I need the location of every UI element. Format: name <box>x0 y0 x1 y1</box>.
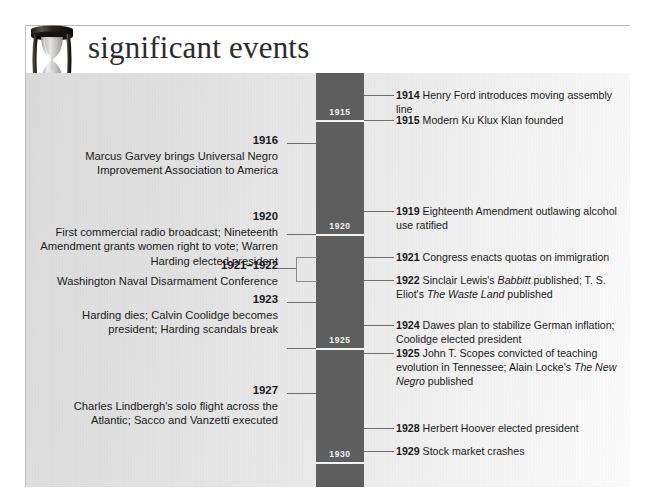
left-event-1923: 1923 Harding dies; Calvin Coolidge becom… <box>56 292 278 337</box>
right-event-1924-year: 1924 <box>396 319 420 331</box>
decade-label-1920: 1920 <box>316 221 364 231</box>
decade-label-1930: 1930 <box>316 449 364 459</box>
left-event-1916-text: Marcus Garvey brings Universal Negro Imp… <box>85 150 278 177</box>
connector-1928 <box>364 428 394 429</box>
right-event-1914-text: Henry Ford introduces moving assembly li… <box>396 89 612 115</box>
decade-rule-1925 <box>316 348 364 350</box>
left-event-1923-text: Harding dies; Calvin Coolidge becomes pr… <box>82 309 278 336</box>
connector-1929 <box>364 451 394 452</box>
connector-1925r <box>364 353 394 354</box>
right-event-1928-text: Herbert Hoover elected president <box>423 422 579 434</box>
connector-1915 <box>364 120 394 121</box>
left-event-1921-1922-year: 1921–1922 <box>40 258 278 273</box>
decade-label-1925: 1925 <box>316 335 364 345</box>
bracket-1921-1922 <box>296 257 317 282</box>
left-event-1927: 1927 Charles Lindbergh's solo flight acr… <box>46 383 278 428</box>
left-event-1921-1922: 1921–1922 Washington Naval Disarmament C… <box>40 258 278 288</box>
left-event-1920-year: 1920 <box>38 209 278 224</box>
right-event-1928: 1928Herbert Hoover elected president <box>396 421 628 435</box>
right-event-1925-year: 1925 <box>396 347 420 359</box>
right-event-1929: 1929Stock market crashes <box>396 444 628 458</box>
connector-1922r <box>364 280 394 281</box>
right-event-1921: 1921Congress enacts quotas on immigratio… <box>396 250 628 264</box>
timeline-page: significant events 1915 1920 1925 1930 <box>0 0 657 496</box>
decade-label-1915: 1915 <box>316 107 364 117</box>
right-event-1915: 1915Modern Ku Klux Klan founded <box>396 113 628 127</box>
connector-1923 <box>287 302 316 303</box>
right-event-1929-text: Stock market crashes <box>423 445 525 457</box>
timeline-bar <box>316 73 364 487</box>
right-event-1929-year: 1929 <box>396 445 420 457</box>
right-event-1925: 1925John T. Scopes convicted of teaching… <box>396 346 628 388</box>
connector-1920l <box>287 234 316 235</box>
connector-1921r <box>364 257 394 258</box>
right-event-1924-text: Dawes plan to stabilize German inflation… <box>396 319 615 345</box>
left-event-1927-text: Charles Lindbergh's solo flight across t… <box>74 400 278 427</box>
decade-rule-1915 <box>316 120 364 122</box>
right-event-1914-year: 1914 <box>396 89 420 101</box>
left-event-1927-year: 1927 <box>46 383 278 398</box>
page-title: significant events <box>88 30 309 66</box>
page-header: significant events <box>26 26 630 73</box>
left-event-1921-1922-text: Washington Naval Disarmament Conference <box>57 275 278 287</box>
right-event-1919-year: 1919 <box>396 205 420 217</box>
right-event-1928-year: 1928 <box>396 422 420 434</box>
decade-rule-1930 <box>316 462 364 464</box>
left-event-1916-year: 1916 <box>46 133 278 148</box>
right-event-1922-text: Sinclair Lewis's Babbitt published; T. S… <box>396 274 606 300</box>
right-event-1919: 1919Eighteenth Amendment outlawing alcoh… <box>396 204 624 232</box>
connector-1914 <box>364 95 394 96</box>
decade-rule-1920 <box>316 234 364 236</box>
left-event-1916: 1916 Marcus Garvey brings Universal Negr… <box>46 133 278 178</box>
left-event-1923-year: 1923 <box>56 292 278 307</box>
right-event-1924: 1924Dawes plan to stabilize German infla… <box>396 318 624 346</box>
right-event-1925-text: John T. Scopes convicted of teaching evo… <box>396 347 616 387</box>
right-event-1915-text: Modern Ku Klux Klan founded <box>423 114 564 126</box>
timeline-panel: 1915 1920 1925 1930 1916 Marcus Garvey b… <box>26 73 630 487</box>
right-event-1921-year: 1921 <box>396 251 420 263</box>
connector-1916 <box>287 143 316 144</box>
right-event-1921-text: Congress enacts quotas on immigration <box>423 251 610 263</box>
connector-1927 <box>287 393 316 394</box>
right-event-1914: 1914Henry Ford introduces moving assembl… <box>396 88 628 116</box>
right-event-1922: 1922Sinclair Lewis's Babbitt published; … <box>396 273 628 301</box>
right-event-1919-text: Eighteenth Amendment outlawing alcohol u… <box>396 205 617 231</box>
bracket-stub-1921-1922 <box>278 268 296 269</box>
right-event-1922-year: 1922 <box>396 274 420 286</box>
connector-1925l-tickgap <box>287 348 316 349</box>
connector-1919 <box>364 211 394 212</box>
right-event-1915-year: 1915 <box>396 114 420 126</box>
connector-1924 <box>364 325 394 326</box>
